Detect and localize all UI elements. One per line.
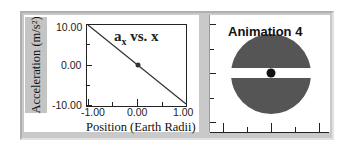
animation-canvas: [0, 0, 349, 148]
animation-title: Animation 4: [228, 24, 302, 39]
falling-ball: [267, 69, 276, 78]
